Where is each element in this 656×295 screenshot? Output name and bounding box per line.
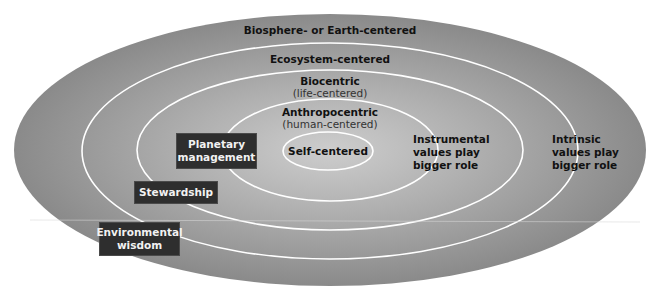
label-anthropocentric-sub: (human-centered) (282, 118, 378, 130)
label-ecosystem: Ecosystem-centered (270, 53, 390, 65)
annotation-instrumental-line3: bigger role (413, 159, 490, 172)
label-anthropocentric-title: Anthropocentric (282, 106, 378, 118)
label-biocentric-sub: (life-centered) (293, 87, 368, 99)
box-environmental-wisdom: Environmental wisdom (99, 222, 180, 256)
annotation-intrinsic-line2: values play (552, 146, 619, 159)
annotation-instrumental: Instrumental values play bigger role (413, 133, 490, 172)
box-planetary-management: Planetary management (176, 133, 257, 169)
label-self-centered: Self-centered (288, 145, 368, 157)
label-biocentric: Biocentric (life-centered) (293, 75, 368, 99)
annotation-instrumental-line1: Instrumental (413, 133, 490, 146)
box-stewardship: Stewardship (134, 181, 218, 204)
box-environmental-line1: Environmental (96, 226, 182, 239)
box-planetary-line1: Planetary (178, 138, 256, 151)
annotation-intrinsic: Intrinsic values play bigger role (552, 133, 619, 172)
box-planetary-line2: management (178, 151, 256, 164)
annotation-intrinsic-line3: bigger role (552, 159, 619, 172)
label-biocentric-title: Biocentric (293, 75, 368, 87)
label-anthropocentric: Anthropocentric (human-centered) (282, 106, 378, 130)
label-biosphere: Biosphere- or Earth-centered (244, 24, 417, 36)
annotation-intrinsic-line1: Intrinsic (552, 133, 619, 146)
box-environmental-line2: wisdom (96, 239, 182, 252)
annotation-instrumental-line2: values play (413, 146, 490, 159)
box-stewardship-line1: Stewardship (139, 186, 213, 199)
